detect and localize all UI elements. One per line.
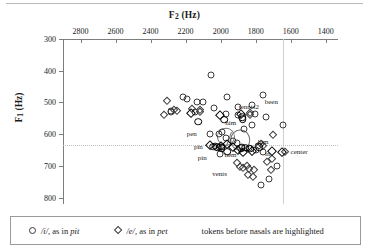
point-label: tennis2 <box>239 103 259 111</box>
y-axis-tick-label: 300 <box>31 35 56 44</box>
legend-item-label: /e/, as in pet <box>126 226 167 236</box>
x-axis-tick <box>291 39 292 43</box>
point-label: center <box>291 148 308 156</box>
y-axis-title-unit: (Hz) <box>14 93 24 113</box>
y-axis-tick <box>59 71 63 72</box>
y-axis-title: F1 (Hz) <box>14 63 25 153</box>
y-axis-tick-label: 500 <box>31 98 56 107</box>
x-axis-tick <box>116 39 117 43</box>
legend-note: tokens before nasals are highlighted <box>202 226 324 236</box>
x-axis-tick <box>221 39 222 43</box>
x-axis-tick-label: 2200 <box>178 27 194 36</box>
plot-area: beentennis2himpenhimpinhemincenterpinven… <box>63 39 338 204</box>
data-point-i <box>265 175 272 182</box>
x-axis-tick-label: 1600 <box>283 27 299 36</box>
y-axis-tick <box>59 39 63 40</box>
data-point-i <box>211 105 218 112</box>
x-axis-tick <box>256 39 257 43</box>
y-axis-tick-label: 400 <box>31 66 56 75</box>
data-point-i <box>258 181 265 188</box>
point-label: pin <box>194 143 203 151</box>
data-point-i <box>248 121 255 128</box>
legend-item: /i/, as in pit <box>29 226 79 236</box>
x-axis-title-unit: (Hz) <box>179 10 200 20</box>
diamond-marker <box>114 226 123 235</box>
y-axis-tick-label: 600 <box>31 130 56 139</box>
legend: /i/, as in pit/e/, as in pettokens befor… <box>10 216 361 245</box>
point-label: him <box>225 119 236 127</box>
y-axis-tick-label: 700 <box>31 161 56 170</box>
y-axis-tick <box>59 198 63 199</box>
y-axis-title-sub: 1 <box>16 113 25 117</box>
x-axis-tick-label: 1800 <box>248 27 264 36</box>
top-divider <box>6 3 363 4</box>
point-label: pin <box>198 154 207 162</box>
x-axis-tick-label: 1400 <box>318 27 334 36</box>
point-label: him <box>258 138 269 146</box>
legend-content: /i/, as in pit/e/, as in pettokens befor… <box>11 217 360 244</box>
point-label: in <box>265 150 270 158</box>
y-axis-tick <box>59 166 63 167</box>
legend-item: /e/, as in pet <box>115 226 167 236</box>
y-axis-tick <box>59 102 63 103</box>
data-point-i <box>200 99 207 106</box>
x-axis-tick <box>151 39 152 43</box>
data-point-i <box>184 96 191 103</box>
x-axis-tick-label: 2400 <box>143 27 159 36</box>
y-axis-tick <box>59 134 63 135</box>
x-axis-title: F2 (Hz) <box>0 10 369 21</box>
x-axis-tick-label: 2600 <box>108 27 124 36</box>
y-axis-tick-label: 800 <box>31 193 56 202</box>
legend-item-label: /i/, as in pit <box>41 226 79 236</box>
point-label: pen <box>187 130 197 138</box>
data-point-i <box>207 72 214 79</box>
data-point-i <box>241 125 248 132</box>
point-label: hem <box>224 151 236 159</box>
figure-root: F2 (Hz) F1 (Hz) beentennis2himpenhimpinh… <box>0 0 369 251</box>
point-label: been <box>265 98 278 106</box>
x-axis-tick <box>81 39 82 43</box>
point-label: vents <box>212 170 227 178</box>
y-axis-title-main: F <box>14 117 24 123</box>
data-point-i <box>207 130 214 137</box>
x-axis-tick-label: 2800 <box>73 27 89 36</box>
data-point-i <box>263 113 270 120</box>
data-point-i <box>195 118 203 126</box>
data-point-i <box>224 94 231 101</box>
circle-marker <box>29 227 36 234</box>
x-axis-tick <box>326 39 327 43</box>
data-point-i <box>279 121 286 128</box>
x-axis-tick <box>186 39 187 43</box>
x-axis-tick-label: 2000 <box>213 27 229 36</box>
scatter-figure: F2 (Hz) F1 (Hz) beentennis2himpenhimpinh… <box>0 6 369 211</box>
